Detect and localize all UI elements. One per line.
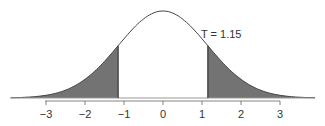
x-tick-label: −2 <box>79 108 92 120</box>
test-statistic-label: T = 1.15 <box>201 28 241 40</box>
x-ticks: −3−2−10123 <box>40 101 283 120</box>
shaded-tails <box>11 46 315 98</box>
cutoff-lines <box>118 46 208 98</box>
density-curve <box>11 11 315 98</box>
x-tick-label: −1 <box>118 108 131 120</box>
x-tick-label: 2 <box>238 108 244 120</box>
x-tick-label: 1 <box>199 108 205 120</box>
t-distribution-chart: −3−2−10123 T = 1.15 <box>0 0 325 126</box>
x-tick-label: −3 <box>40 108 53 120</box>
x-tick-label: 3 <box>277 108 283 120</box>
x-tick-label: 0 <box>160 108 166 120</box>
